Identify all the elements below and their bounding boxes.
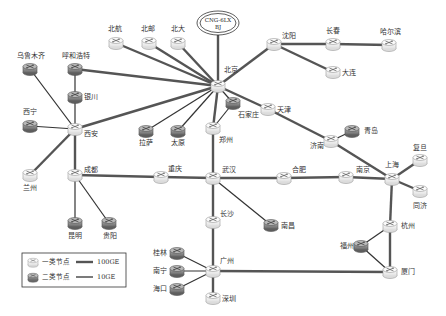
node-fudan[interactable] (413, 155, 427, 167)
node-label-tongji: 同济 (413, 201, 427, 210)
node-lasa[interactable] (139, 126, 153, 138)
node-tongji[interactable] (413, 186, 427, 198)
router-type1-icon (206, 173, 220, 185)
router-type2-icon (264, 220, 278, 232)
node-label-kunming: 昆明 (68, 232, 82, 240)
node-label-yinchuan: 银川 (84, 92, 98, 101)
router-type1-icon (413, 186, 427, 198)
node-guiyang[interactable] (102, 218, 116, 230)
node-nanchang[interactable] (264, 220, 278, 232)
router-type1-icon (142, 38, 156, 50)
node-label-chongqing: 重庆 (168, 164, 182, 173)
router-type1-icon (171, 38, 185, 50)
node-xining[interactable] (23, 121, 37, 133)
node-label-shijiazhuang: 石家庄 (238, 110, 259, 119)
link-guangzhou-xiamen (213, 271, 390, 272)
node-label-beihang: 北航 (108, 24, 122, 33)
node-label-jinan: 济南 (310, 141, 324, 150)
link-chengdu-chongqing (75, 175, 161, 177)
node-label-zhengzhou: 郑州 (219, 136, 233, 144)
link-changchun-haerbin (333, 44, 389, 45)
node-label-qingdao: 青岛 (364, 126, 378, 135)
node-wulumuqi[interactable] (23, 64, 37, 76)
router-type1-icon (23, 170, 37, 182)
node-label-hefei: 合肥 (292, 165, 306, 174)
node-label-nanjing: 南京 (356, 165, 370, 174)
router-type2-icon (170, 284, 184, 296)
node-label-nanchang: 南昌 (281, 221, 295, 230)
node-wuhan[interactable] (206, 173, 220, 185)
node-shenyang[interactable] (267, 39, 281, 51)
exchange-label-line1: CNG-6LX (205, 17, 232, 23)
router-type1-icon (382, 40, 396, 52)
node-label-fuzhou: 福州 (340, 241, 354, 250)
node-guangzhou[interactable] (206, 266, 220, 278)
router-type2-icon (170, 248, 184, 260)
node-haerbin[interactable] (382, 40, 396, 52)
node-xian[interactable] (68, 124, 82, 136)
router-type1-icon (261, 104, 275, 116)
node-fuzhou[interactable] (354, 241, 368, 253)
legend-type2-label: 二类节点 (42, 272, 70, 281)
node-label-fudan: 复旦 (413, 143, 427, 152)
node-taiyuan[interactable] (171, 126, 185, 138)
node-guilin[interactable] (170, 248, 184, 260)
node-label-nanning: 南宁 (153, 266, 167, 275)
node-haikou[interactable] (170, 284, 184, 296)
node-huhehaote[interactable] (68, 64, 82, 76)
router-type1-icon (383, 221, 397, 233)
link-shanghai-hangzhou (390, 179, 392, 226)
router-type1-icon (413, 155, 427, 167)
router-type2-icon (345, 126, 359, 138)
node-beijing[interactable] (211, 81, 225, 93)
node-label-tianjin: 天津 (277, 106, 291, 114)
link-lanzhou-xian (30, 129, 75, 175)
node-label-dalian: 大连 (342, 68, 356, 77)
legend-10ge-label: 10GE (97, 273, 115, 281)
node-beida[interactable] (171, 38, 185, 50)
router-type2-icon (354, 241, 368, 253)
legend-type2-icon (28, 273, 38, 282)
node-label-beida: 北大 (171, 24, 185, 33)
node-nanjing[interactable] (339, 172, 353, 184)
node-qingdao[interactable] (345, 126, 359, 138)
node-xiamen[interactable] (383, 267, 397, 279)
node-yinchuan[interactable] (68, 92, 82, 104)
node-shanghai[interactable] (385, 174, 399, 186)
link-beijing-shenyang (218, 44, 274, 86)
legend-type1-icon (28, 258, 38, 267)
node-kunming[interactable] (68, 218, 82, 230)
router-type1-icon (109, 38, 123, 50)
router-type1-icon (326, 39, 340, 51)
router-type1-icon (324, 136, 338, 148)
link-chongqing-wuhan (161, 177, 213, 178)
router-type1-icon (383, 267, 397, 279)
node-label-guangzhou: 广州 (220, 256, 234, 265)
node-chengdu[interactable] (68, 170, 82, 182)
node-jinan[interactable] (324, 136, 338, 148)
node-dalian[interactable] (326, 67, 340, 79)
router-type1-icon (339, 172, 353, 184)
node-beiyou[interactable] (142, 38, 156, 50)
router-type2-icon (23, 64, 37, 76)
node-shijiazhuang[interactable] (226, 98, 240, 110)
node-shenzhen[interactable] (206, 293, 220, 305)
node-changsha[interactable] (206, 217, 220, 229)
node-zhengzhou[interactable] (206, 123, 220, 135)
node-label-guilin: 桂林 (153, 248, 167, 257)
router-type1-icon (206, 293, 220, 305)
node-label-shenzhen: 深圳 (222, 294, 236, 303)
node-label-beiyou: 北邮 (141, 24, 155, 33)
node-nanning[interactable] (170, 266, 184, 278)
node-tianjin[interactable] (261, 104, 275, 116)
node-hefei[interactable] (277, 173, 291, 185)
node-lanzhou[interactable] (23, 170, 37, 182)
node-hangzhou[interactable] (383, 221, 397, 233)
node-label-lanzhou: 兰州 (23, 183, 37, 192)
router-type2-icon (139, 126, 153, 138)
node-changchun[interactable] (326, 39, 340, 51)
legend-type1-label: 一类节点 (42, 257, 70, 266)
router-type1-icon (211, 81, 225, 93)
node-chongqing[interactable] (154, 172, 168, 184)
node-beihang[interactable] (109, 38, 123, 50)
